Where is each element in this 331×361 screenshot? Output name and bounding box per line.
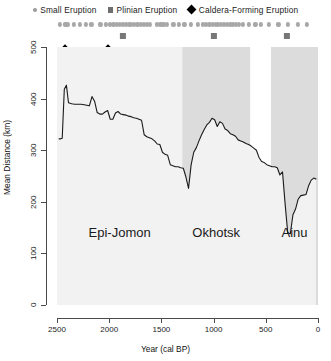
- chart-canvas: [57, 47, 318, 305]
- chart-figure: Small Eruption Plinian Eruption Caldera-…: [0, 0, 331, 361]
- y-axis-tick: [41, 253, 46, 254]
- small-eruption-marker: [247, 22, 251, 26]
- y-axis-tick-label: 300: [30, 141, 38, 159]
- x-axis-tick-label: 2500: [48, 326, 66, 334]
- y-axis-tick-label: 0: [30, 296, 38, 314]
- small-eruption-marker: [165, 22, 169, 26]
- legend-label-plinian-eruption: Plinian Eruption: [117, 6, 178, 14]
- legend-label-caldera-eruption: Caldera-Forming Eruption: [199, 6, 298, 14]
- small-eruption-marker: [196, 22, 200, 26]
- small-circle-icon: [33, 8, 37, 12]
- x-axis-title: Year (cal BP): [0, 344, 331, 354]
- x-axis-tick: [318, 318, 319, 323]
- y-axis-tick-label: 200: [30, 193, 38, 211]
- x-axis-line: [57, 318, 318, 319]
- x-axis-tick-label: 1500: [152, 326, 170, 334]
- x-axis-tick-label: 2000: [100, 326, 118, 334]
- plinian-eruption-marker: [284, 33, 290, 39]
- y-axis-tick: [41, 202, 46, 203]
- small-eruption-marker: [84, 22, 88, 26]
- y-axis-tick: [41, 305, 46, 306]
- small-eruption-marker: [171, 22, 175, 26]
- y-axis-line: [46, 47, 47, 305]
- legend-item-plinian-eruption: Plinian Eruption: [108, 6, 178, 14]
- legend-item-small-eruption: Small Eruption: [33, 6, 97, 14]
- plot-area: [57, 47, 318, 305]
- x-axis-tick-label: 0: [316, 326, 320, 334]
- x-axis-tick: [57, 318, 58, 323]
- period-label-ainu: Ainu: [281, 226, 307, 239]
- legend-label-small-eruption: Small Eruption: [40, 6, 96, 14]
- period-label-okhotsk: Okhotsk: [192, 226, 240, 239]
- x-axis-tick: [109, 318, 110, 323]
- small-eruption-marker: [296, 22, 300, 26]
- x-axis-tick: [266, 318, 267, 323]
- y-axis-tick-label: 100: [30, 244, 38, 262]
- plinian-eruption-marker: [120, 33, 126, 39]
- small-eruption-marker: [259, 22, 263, 26]
- x-axis-tick: [214, 318, 215, 323]
- small-eruption-marker: [58, 22, 62, 26]
- x-axis-tick-label: 500: [259, 326, 272, 334]
- small-eruption-marker: [103, 22, 107, 26]
- y-axis-tick-label: 500: [30, 38, 38, 56]
- y-axis-tick-label: 400: [30, 90, 38, 108]
- plinian-eruption-marker-strip: [0, 31, 331, 41]
- small-eruption-marker: [89, 22, 93, 26]
- y-axis-tick: [41, 99, 46, 100]
- small-eruption-marker: [276, 22, 280, 26]
- y-axis-tick: [41, 47, 46, 48]
- x-axis-tick-label: 1000: [205, 326, 223, 334]
- small-eruption-marker: [241, 22, 245, 26]
- small-eruption-marker: [189, 22, 193, 26]
- diamond-icon: [187, 5, 197, 15]
- small-eruption-marker: [253, 22, 257, 26]
- small-eruption-marker: [148, 22, 152, 26]
- small-eruption-marker-strip: [0, 20, 331, 29]
- small-eruption-marker: [78, 22, 82, 26]
- chart-legend: Small Eruption Plinian Eruption Caldera-…: [0, 2, 331, 18]
- period-label-epi-jomon: Epi-Jomon: [89, 226, 151, 239]
- small-eruption-marker: [182, 22, 186, 26]
- small-eruption-marker: [304, 22, 308, 26]
- x-axis-tick: [161, 318, 162, 323]
- small-eruption-marker: [177, 22, 181, 26]
- y-axis-title: Mean Distance (km): [2, 120, 12, 195]
- small-eruption-marker: [65, 22, 69, 26]
- legend-item-caldera-eruption: Caldera-Forming Eruption: [188, 6, 298, 14]
- small-eruption-marker: [98, 22, 102, 26]
- small-eruption-marker: [286, 22, 290, 26]
- square-icon: [108, 7, 114, 13]
- small-eruption-marker: [72, 22, 76, 26]
- small-eruption-marker: [267, 22, 271, 26]
- plinian-eruption-marker: [211, 33, 217, 39]
- y-axis-tick: [41, 150, 46, 151]
